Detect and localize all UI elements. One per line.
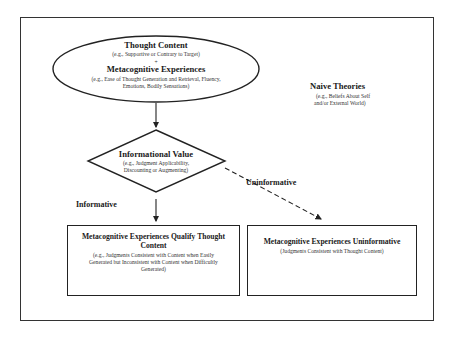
naive-theories-subtitle-2: and/or External World) bbox=[314, 100, 404, 106]
metacognitive-experiences-title: Metacognitive Experiences bbox=[70, 65, 242, 75]
metacognitive-experiences-subtitle-1: (e.g., Ease of Thought Generation and Re… bbox=[60, 76, 252, 82]
experiences-uninformative-box: Metacognitive Experiences Uninformative … bbox=[247, 225, 417, 296]
thought-content-title: Thought Content bbox=[80, 41, 232, 51]
qualify-title-2: Content bbox=[68, 242, 239, 251]
qualify-subtitle-2: Generated but Inconsistent with Content … bbox=[68, 259, 239, 265]
informational-value-subtitle-1: (e.g., Judgment Applicability, bbox=[106, 160, 206, 166]
informative-label: Informative bbox=[76, 200, 117, 209]
naive-theories-title: Naive Theories bbox=[310, 82, 390, 92]
uninformative-box-title: Metacognitive Experiences Uninformative bbox=[248, 238, 416, 247]
naive-theories-subtitle-1: (e.g., Beliefs About Self bbox=[316, 93, 406, 99]
arrow-uninformative-dashed bbox=[225, 168, 321, 219]
informational-value-title: Informational Value bbox=[106, 150, 206, 160]
informational-value-subtitle-2: Discounting or Augmenting) bbox=[106, 167, 206, 173]
uninformative-box-subtitle: (Judgments Consistent with Thought Conte… bbox=[248, 248, 416, 254]
uninformative-label: Uninformative bbox=[246, 178, 296, 187]
thought-content-subtitle: (e.g., Supportive or Contrary to Target) bbox=[70, 51, 242, 57]
qualify-thought-content-box: Metacognitive Experiences Qualify Though… bbox=[67, 225, 240, 296]
qualify-subtitle-1: (e.g., Judgments Consistent with Content… bbox=[68, 252, 239, 258]
qualify-subtitle-3: Generated) bbox=[68, 266, 239, 272]
metacognitive-experiences-subtitle-2: Emotions, Bodily Sensations) bbox=[60, 83, 252, 89]
